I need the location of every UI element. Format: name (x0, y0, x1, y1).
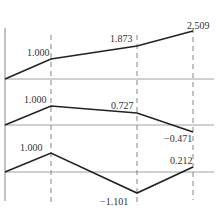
label-s1-p1: 1.000 (27, 47, 50, 58)
series-2-line (5, 106, 193, 132)
label-s2-p1: 1.000 (24, 94, 47, 105)
label-s2-p2: 0.727 (111, 100, 134, 111)
label-s3-p1: 1.000 (20, 142, 43, 153)
label-s2-p3: −0.471 (164, 133, 192, 144)
label-s3-p3: 0.212 (170, 155, 193, 166)
chart-svg: 1.000 1.873 2.509 1.000 0.727 −0.471 1.0… (0, 0, 223, 214)
label-s3-p2: −1.101 (100, 196, 128, 207)
series-3-line (5, 153, 193, 193)
chart-canvas: 1.000 1.873 2.509 1.000 0.727 −0.471 1.0… (0, 0, 223, 214)
label-s1-p3: 2.509 (187, 20, 210, 31)
label-s1-p2: 1.873 (110, 33, 133, 44)
